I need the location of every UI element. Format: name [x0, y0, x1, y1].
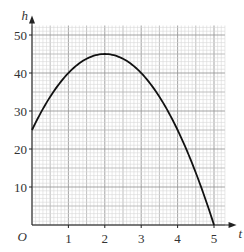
chart-svg: 123451020304050Oth	[0, 0, 244, 252]
y-axis-label: h	[22, 8, 29, 23]
x-tick-label: 1	[65, 231, 72, 246]
y-axis-arrow-icon	[29, 16, 35, 24]
y-tick-label: 10	[14, 180, 27, 195]
origin-label: O	[18, 229, 28, 244]
x-tick-label: 5	[211, 231, 218, 246]
x-axis-arrow-icon	[229, 222, 237, 228]
x-axis-label: t	[239, 226, 243, 241]
y-tick-label: 30	[14, 104, 27, 119]
y-tick-label: 20	[14, 142, 27, 157]
x-tick-label: 3	[138, 231, 145, 246]
x-tick-label: 4	[174, 231, 181, 246]
chart: 123451020304050Oth	[0, 0, 244, 252]
y-tick-label: 50	[14, 28, 27, 43]
y-tick-label: 40	[14, 66, 27, 81]
x-tick-label: 2	[102, 231, 109, 246]
